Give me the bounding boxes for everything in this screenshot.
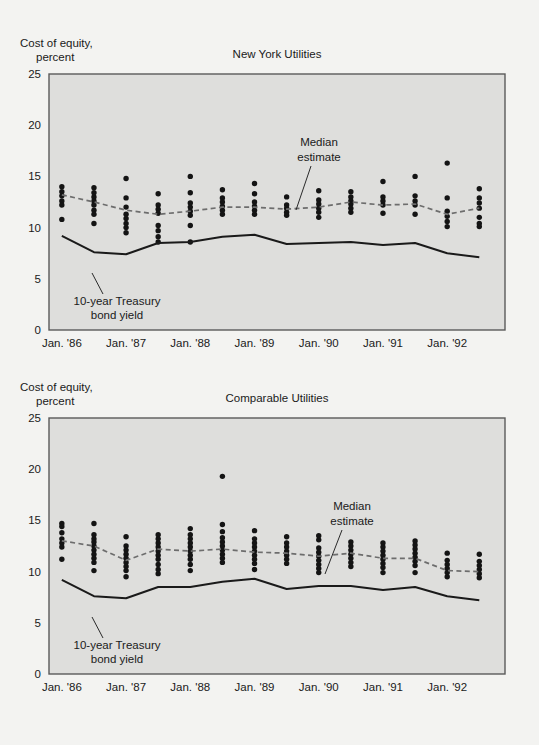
x-tick-label: Jan. '92 [427,681,467,693]
data-point [123,216,128,221]
data-point [220,187,225,192]
median-annotation-line1: Median [333,500,371,512]
data-point [348,564,353,569]
data-point [188,568,193,573]
y-tick-label: 25 [28,412,41,424]
treasury-annotation-line1: 10-year Treasury [74,295,161,307]
y-tick-label: 15 [28,170,41,182]
data-point [412,174,417,179]
data-point [91,185,96,190]
data-point [188,174,193,179]
x-tick-label: Jan. '89 [235,337,275,349]
x-tick-label: Jan. '87 [106,337,146,349]
data-point [348,210,353,215]
data-point [252,561,257,566]
data-point [91,221,96,226]
data-point [188,557,193,562]
data-point [59,217,64,222]
y-tick-label: 0 [35,324,41,336]
data-point [477,186,482,191]
chart-comparable-utilities: Cost of equity, percent Comparable Utili… [0,374,539,704]
y-tick-label: 10 [28,566,41,578]
data-point [155,234,160,239]
data-point [59,544,64,549]
data-point [316,537,321,542]
data-point [380,565,385,570]
data-point [444,224,449,229]
data-point [220,529,225,534]
data-point [220,560,225,565]
chart-new-york-utilities: Cost of equity, percent New York Utiliti… [0,30,539,360]
data-point [123,568,128,573]
data-point [412,202,417,207]
data-point [284,194,289,199]
data-point [284,213,289,218]
data-point [316,570,321,575]
y-tick-label: 5 [35,273,41,285]
x-tick-label: Jan. '91 [363,681,403,693]
median-annotation-line1: Median [300,136,338,148]
data-point [284,561,289,566]
y-axis-title-line2: percent [36,51,75,63]
data-point [252,567,257,572]
data-point [444,550,449,555]
x-tick-label: Jan. '87 [106,681,146,693]
data-point [412,563,417,568]
data-point [188,223,193,228]
data-point [155,191,160,196]
plot-frame [49,74,505,330]
x-tick-label: Jan. '90 [299,681,339,693]
plot-area [49,418,505,674]
y-axis-ticks: 0510152025 [28,412,41,680]
y-tick-label: 20 [28,463,41,475]
data-point [316,210,321,215]
data-point [123,204,128,209]
y-tick-label: 25 [28,68,41,80]
data-point [123,225,128,230]
y-axis-title-line2: percent [36,395,75,407]
data-point [444,160,449,165]
y-tick-label: 20 [28,119,41,131]
y-tick-label: 0 [35,668,41,680]
data-point [220,522,225,527]
data-point [348,189,353,194]
chart-title: New York Utilities [233,48,322,60]
data-point [380,211,385,216]
page-background: Cost of equity, percent New York Utiliti… [0,0,539,745]
median-annotation-line2: estimate [297,151,340,163]
y-tick-label: 15 [28,514,41,526]
x-tick-label: Jan. '86 [42,337,82,349]
data-point [59,202,64,207]
plot-frame [49,418,505,674]
data-point [59,530,64,535]
data-point [412,193,417,198]
data-point [252,191,257,196]
x-tick-label: Jan. '91 [363,337,403,349]
y-axis-ticks: 0510152025 [28,68,41,336]
treasury-annotation-line2: bond yield [91,653,143,665]
data-point [155,571,160,576]
x-tick-label: Jan. '90 [299,337,339,349]
data-point [123,574,128,579]
y-axis-title-line1: Cost of equity, [20,381,93,393]
plot-svg-bottom: Cost of equity, percent Comparable Utili… [0,374,539,704]
treasury-annotation-line2: bond yield [91,309,143,321]
data-point [91,212,96,217]
plot-area [49,74,505,330]
x-axis-ticks: Jan. '86Jan. '87Jan. '88Jan. '89Jan. '90… [42,337,467,349]
data-point [59,557,64,562]
data-point [59,524,64,529]
chart-title: Comparable Utilities [226,392,329,404]
data-point [188,213,193,218]
treasury-annotation-line1: 10-year Treasury [74,639,161,651]
data-point [220,212,225,217]
data-point [91,568,96,573]
data-point [252,212,257,217]
data-point [123,176,128,181]
data-point [412,212,417,217]
y-tick-label: 10 [28,222,41,234]
x-tick-label: Jan. '88 [170,337,210,349]
x-tick-label: Jan. '89 [235,681,275,693]
x-tick-label: Jan. '86 [42,681,82,693]
data-point [444,574,449,579]
